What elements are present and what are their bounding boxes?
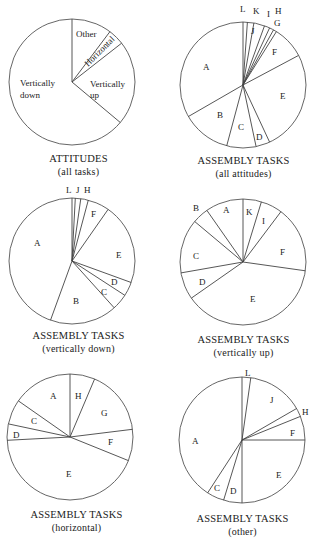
chart-title-assembly-other: ASSEMBLY TASKS (other) [164,512,314,538]
label-vertically-up-1: Vertically [90,79,125,89]
label-E: E [66,469,72,479]
label-D: D [230,486,237,496]
label-vertically-up-2: up [90,90,100,100]
label-J: J [270,395,274,405]
chart-title-assembly-all: ASSEMBLY TASKS (all attitudes) [165,154,314,180]
chart-subtitle: (all attitudes) [165,167,314,180]
chart-title: ASSEMBLY TASKS [164,512,314,525]
label-J: J [251,26,255,36]
label-D: D [199,277,206,287]
label-E: E [250,294,256,304]
label-G: G [101,408,108,418]
label-vertically-down-1: Vertically [20,78,55,88]
chart-title-assembly-horizontal: ASSEMBLY TASKS (horizontal) [0,508,155,534]
label-C: C [31,416,37,426]
label-H: H [84,185,91,195]
label-F: F [290,428,295,438]
chart-title: ASSEMBLY TASKS [165,154,314,167]
label-C: C [193,251,199,261]
label-K: K [253,6,260,16]
label-other: Other [76,29,97,39]
chart-title: ASSEMBLY TASKS [0,508,155,521]
label-G: G [274,18,281,28]
chart-title: ASSEMBLY TASKS [165,333,314,346]
label-vertically-down-2: down [20,90,40,100]
pie-charts-canvas: Other Horizontal Vertically up Verticall… [0,0,314,544]
label-A: A [223,205,230,215]
label-F: F [91,209,96,219]
chart-subtitle: (other) [164,525,314,538]
chart-subtitle: (vertically down) [0,342,157,355]
label-E: E [116,250,122,260]
label-L: L [240,4,246,14]
label-A: A [192,436,199,446]
label-C: C [214,483,220,493]
label-B: B [73,296,79,306]
label-D: D [256,132,263,142]
label-L: L [245,368,251,378]
label-D: D [13,430,20,440]
label-H: H [75,391,82,401]
label-D: D [111,277,118,287]
label-J: J [76,185,80,195]
chart-title: ASSEMBLY TASKS [0,329,157,342]
label-F: F [108,437,113,447]
label-E: E [280,91,286,101]
label-A: A [50,391,57,401]
chart-title: ATTITUDES [0,152,157,165]
label-A: A [34,238,41,248]
label-H: H [302,407,309,417]
label-F: F [272,47,277,57]
label-A: A [203,62,210,72]
label-I: I [267,9,270,19]
label-B: B [217,110,223,120]
label-E: E [276,470,282,480]
chart-subtitle: (all tasks) [0,165,157,178]
label-K: K [246,207,253,217]
chart-title-assembly-vdown: ASSEMBLY TASKS (vertically down) [0,329,157,355]
label-C: C [101,287,107,297]
label-L: L [66,185,72,195]
chart-title-attitudes: ATTITUDES (all tasks) [0,152,157,178]
chart-title-assembly-vup: ASSEMBLY TASKS (vertically up) [165,333,314,359]
label-F: F [280,247,285,257]
label-B: B [193,203,199,213]
label-I: I [262,216,265,226]
label-H: H [275,6,282,16]
chart-subtitle: (horizontal) [0,521,155,534]
label-C: C [238,122,244,132]
chart-subtitle: (vertically up) [165,346,314,359]
